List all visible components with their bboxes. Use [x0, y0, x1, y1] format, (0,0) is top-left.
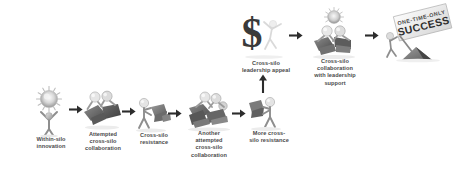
step-label-more-cross-silo-resistance: More cross- silo resistance	[234, 130, 304, 144]
arrow-right-3	[168, 109, 182, 118]
diagram-canvas: Within-silo innovation	[0, 0, 459, 176]
arrow-right-4	[232, 109, 246, 118]
two-figures-with-idea-icon	[305, 8, 363, 60]
figure-planting-flag-icon: ONE-TIME-ONLY SUCCESS	[380, 6, 456, 62]
step-label-cross-silo-leadership-appeal: Cross-silo leadership appeal	[230, 60, 302, 74]
dollar-sign-with-figure-icon: $	[236, 12, 292, 60]
three-figures-collaborating-icon	[181, 88, 237, 132]
arrow-right-6	[289, 31, 303, 40]
two-figures-collaborating-icon	[78, 88, 126, 130]
svg-text:$: $	[242, 10, 263, 56]
step-label-attempted-cross-silo-collaboration: Attempted cross-silo collaboration	[72, 131, 134, 153]
figure-resisting-icon-2	[245, 92, 287, 132]
arrow-right-7	[365, 31, 379, 40]
step-label-cross-silo-collaboration-with-leadership-support: Cross-silo collaboration with leadership…	[300, 58, 370, 87]
arrow-up-5	[258, 74, 268, 93]
